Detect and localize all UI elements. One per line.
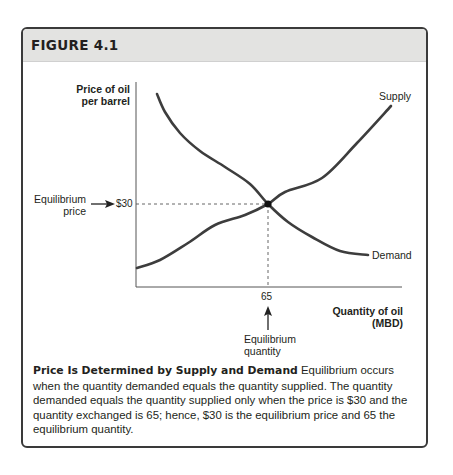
equilibrium-price-label: Equilibrium price — [30, 193, 86, 217]
x-axis-label-line2: (MBD) — [320, 317, 403, 329]
equilibrium-quantity-line2: quantity — [244, 345, 296, 357]
x-axis-label: Quantity of oil (MBD) — [320, 305, 403, 329]
equilibrium-quantity-label: Equilibrium quantity — [244, 333, 296, 357]
y-axis-label-line2: per barrel — [72, 95, 130, 107]
equilibrium-price-line2: price — [30, 205, 86, 217]
caption-title: Price Is Determined by Supply and Demand — [33, 364, 298, 377]
y-axis-label: Price of oil per barrel — [72, 83, 130, 107]
demand-label: Demand — [372, 249, 412, 261]
equilibrium-point — [264, 200, 271, 207]
figure-caption: Price Is Determined by Supply and Demand… — [33, 363, 418, 437]
equilibrium-quantity-line1: Equilibrium — [244, 333, 296, 345]
x-axis-label-line1: Quantity of oil — [320, 305, 403, 317]
equilibrium-price-line1: Equilibrium — [30, 193, 86, 205]
supply-label: Supply — [379, 90, 411, 102]
y-axis-label-line1: Price of oil — [72, 83, 130, 95]
supply-curve — [137, 106, 391, 268]
quantity-tick-label: 65 — [261, 291, 272, 303]
price-tick-label: $30 — [116, 198, 133, 210]
demand-curve — [157, 94, 368, 255]
